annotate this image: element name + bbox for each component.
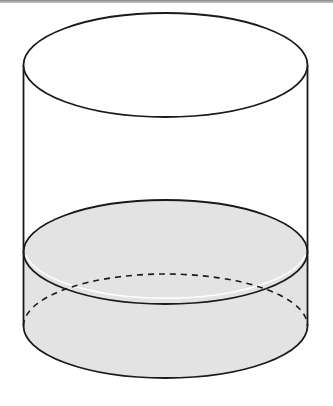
top-rim-ellipse (24, 13, 308, 117)
cylinder-diagram (0, 0, 333, 406)
